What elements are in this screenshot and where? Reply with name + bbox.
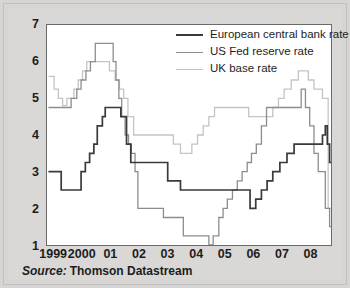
source-value: Thomson Datastream bbox=[70, 264, 193, 278]
legend-item-usfed: US Fed reserve rate bbox=[176, 45, 336, 59]
source-caption: Source:Thomson Datastream bbox=[22, 264, 192, 278]
chart-card: 1234567 199920000102030405060708 Europea… bbox=[8, 8, 342, 280]
series-line bbox=[48, 108, 331, 209]
legend-item-ecb: European central bank rate bbox=[176, 28, 336, 42]
x-tick-label: 05 bbox=[218, 248, 232, 261]
chart-figure: 1234567 199920000102030405060708 Europea… bbox=[0, 0, 350, 288]
y-tick-label: 2 bbox=[32, 203, 39, 216]
y-axis: 1234567 bbox=[8, 24, 44, 246]
y-tick-label: 7 bbox=[32, 18, 39, 31]
x-tick-label: 1999 bbox=[39, 248, 67, 261]
x-tick-label: 06 bbox=[246, 248, 260, 261]
y-tick-label: 3 bbox=[32, 166, 39, 179]
x-tick-label: 02 bbox=[132, 248, 146, 261]
x-tick-label: 01 bbox=[103, 248, 117, 261]
x-tick-label: 04 bbox=[189, 248, 203, 261]
y-tick-label: 4 bbox=[32, 129, 39, 142]
legend-swatch-ecb bbox=[176, 34, 203, 36]
series-line bbox=[48, 62, 331, 209]
legend-item-uk: UK base rate bbox=[176, 62, 336, 76]
x-tick-label: 03 bbox=[161, 248, 175, 261]
x-tick-label: 2000 bbox=[68, 248, 96, 261]
y-tick-label: 6 bbox=[32, 55, 39, 68]
y-tick-label: 5 bbox=[32, 92, 39, 105]
x-tick-label: 08 bbox=[304, 248, 318, 261]
legend-label-usfed: US Fed reserve rate bbox=[210, 46, 314, 58]
legend-swatch-uk bbox=[176, 69, 203, 70]
legend-swatch-usfed bbox=[176, 52, 203, 53]
y-tick-label: 1 bbox=[32, 240, 39, 253]
x-tick-label: 07 bbox=[275, 248, 289, 261]
chart-legend: European central bank rate US Fed reserv… bbox=[176, 28, 336, 79]
legend-label-ecb: European central bank rate bbox=[210, 29, 349, 41]
legend-label-uk: UK base rate bbox=[210, 63, 277, 75]
source-label: Source: bbox=[22, 264, 67, 278]
